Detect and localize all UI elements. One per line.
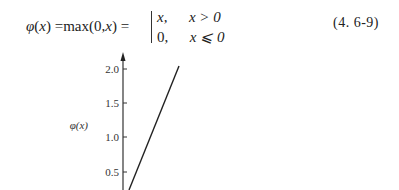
relu-line bbox=[129, 66, 179, 190]
tick-label-0-5: 0.5 bbox=[105, 166, 119, 178]
y-axis-label: φ(x) bbox=[70, 119, 89, 132]
tick-label-1-5: 1.5 bbox=[105, 97, 119, 109]
y-axis-arrow-icon bbox=[121, 52, 126, 61]
tick-label-1-0: 1.0 bbox=[105, 131, 119, 143]
tick-label-2-0: 2.0 bbox=[105, 63, 119, 75]
relu-chart: 2.0 1.5 1.0 0.5 φ(x) bbox=[0, 0, 399, 190]
